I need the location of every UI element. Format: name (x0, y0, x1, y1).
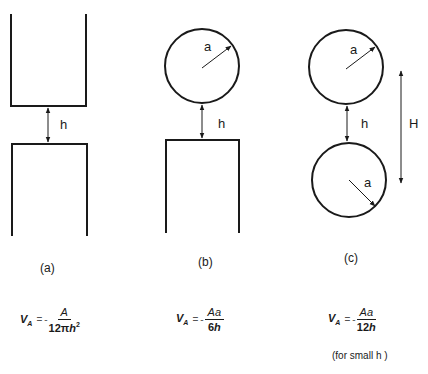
equation-c: VA = - Aa 12h (328, 306, 376, 333)
radius-label-b: a (204, 40, 211, 53)
panel-a-geometry (11, 14, 87, 236)
panel-b-geometry (165, 29, 239, 233)
equation-lhs: VA (20, 313, 32, 327)
upper-plate (11, 14, 86, 106)
panel-label-b: (b) (198, 256, 213, 268)
equation-a: VA = - A 12πh2 (20, 306, 80, 334)
equation-lhs: VA (176, 312, 188, 326)
equation-lhs: VA (328, 312, 340, 326)
top-sphere (309, 30, 383, 104)
center-distance-label-c: H (409, 117, 418, 130)
panel-label-a: (a) (40, 262, 55, 274)
sphere (165, 29, 239, 103)
panel-label-c: (c) (344, 252, 358, 264)
equation-b: VA = - Aa 6h (176, 306, 224, 333)
flat-plate (166, 140, 239, 233)
fraction: Aa 6h (205, 306, 224, 333)
gap-label-c: h (361, 117, 368, 130)
radius-label-c-bottom: a (364, 176, 371, 189)
gap-label-a: h (60, 118, 67, 131)
small-h-note: (for small h ) (332, 350, 388, 361)
panel-c-geometry (309, 30, 401, 217)
lower-plate (12, 144, 87, 236)
fraction: A 12πh2 (49, 306, 80, 334)
fraction: Aa 12h (357, 306, 376, 333)
gap-label-b: h (218, 117, 225, 130)
radius-label-c-top: a (350, 43, 357, 56)
